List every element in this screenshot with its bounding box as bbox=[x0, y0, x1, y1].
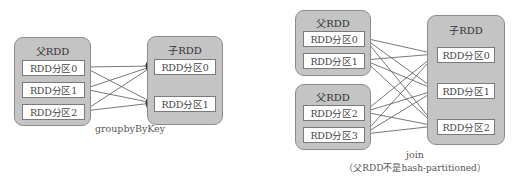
partition-box: RDD分区2 bbox=[437, 119, 495, 135]
groupby-caption: groupbyByKey bbox=[80, 123, 180, 134]
partition-box: RDD分区1 bbox=[303, 53, 365, 69]
join-caption: join bbox=[340, 149, 490, 160]
rdd-title: 父RDD bbox=[296, 89, 370, 104]
groupby-edges bbox=[84, 66, 153, 111]
rdd-title: 父RDD bbox=[15, 43, 90, 58]
groupby-parent-rdd: 父RDD RDD分区0 RDD分区1 RDD分区2 bbox=[14, 37, 91, 126]
join-edges bbox=[364, 38, 436, 134]
join-child-rdd: 子RDD RDD分区0 RDD分区1 RDD分区2 bbox=[427, 15, 505, 145]
rdd-title: 子RDD bbox=[428, 22, 504, 37]
join-parent-rdd-2: 父RDD RDD分区2 RDD分区3 bbox=[295, 84, 371, 150]
partition-box: RDD分区0 bbox=[154, 59, 216, 75]
partition-box: RDD分区0 bbox=[437, 47, 495, 63]
join-caption-note: （父RDD不是hash-partitioned） bbox=[330, 161, 500, 174]
groupby-child-rdd: 子RDD RDD分区0 RDD分区1 bbox=[147, 36, 223, 125]
partition-box: RDD分区1 bbox=[22, 82, 85, 98]
rdd-title: 子RDD bbox=[148, 42, 222, 57]
partition-box: RDD分区1 bbox=[437, 83, 495, 99]
rdd-title: 父RDD bbox=[296, 15, 370, 30]
partition-box: RDD分区2 bbox=[22, 104, 85, 120]
partition-box: RDD分区0 bbox=[22, 60, 85, 76]
join-parent-rdd-1: 父RDD RDD分区0 RDD分区1 bbox=[295, 10, 371, 76]
partition-box: RDD分区0 bbox=[303, 31, 365, 47]
partition-box: RDD分区3 bbox=[303, 127, 365, 143]
partition-box: RDD分区1 bbox=[154, 96, 216, 112]
partition-box: RDD分区2 bbox=[303, 105, 365, 121]
